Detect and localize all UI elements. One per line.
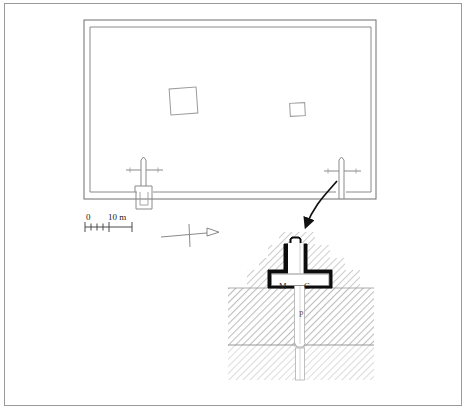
plan-inner-wall [90, 27, 371, 192]
section-group [228, 232, 374, 380]
section-label-m: M [279, 282, 287, 291]
drawing-canvas [0, 0, 468, 411]
plan-outer-wall [84, 20, 376, 199]
section-label-c: C [304, 282, 310, 291]
scale-bar-max-label: 10 m [108, 213, 126, 222]
plan-group [84, 20, 376, 209]
scale-bar-group [85, 222, 132, 232]
north-arrow-group [161, 224, 219, 247]
figure-root: 0 10 m M C P [0, 0, 468, 411]
scale-bar-zero-label: 0 [86, 213, 91, 222]
plan-structure-large [169, 87, 198, 115]
plan-west-gate [126, 157, 163, 209]
plan-structure-small [290, 103, 306, 117]
detail-leader-arrow [306, 181, 337, 226]
section-label-p: P [299, 311, 303, 319]
plan-east-gate [324, 157, 361, 199]
